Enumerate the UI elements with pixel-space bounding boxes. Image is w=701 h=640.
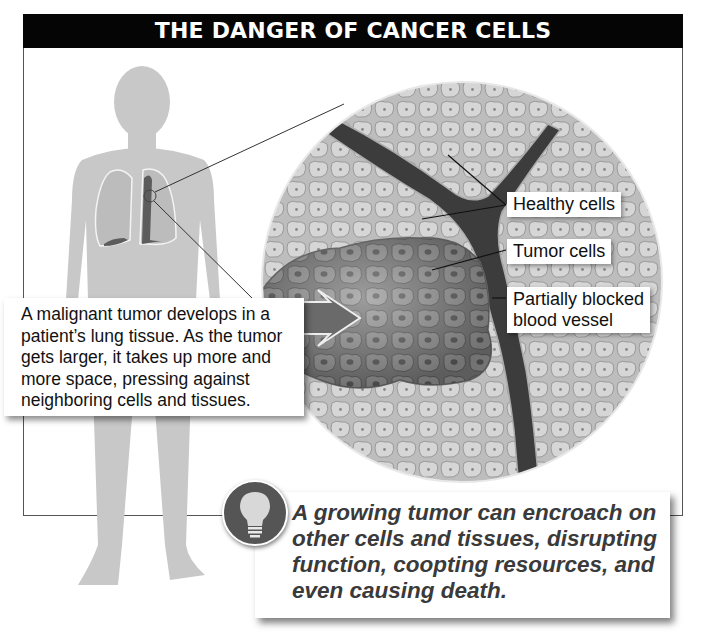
label-healthy-cells: Healthy cells xyxy=(507,192,621,217)
key-insight-box: A growing tumor can encroach on other ce… xyxy=(255,492,670,618)
insight-line: even causing death. xyxy=(292,578,664,604)
magnified-tissue xyxy=(250,70,680,500)
label-blocked-vessel: Partially blocked blood vessel xyxy=(507,287,650,333)
insight-line: other cells and tissues, disrupting xyxy=(292,526,664,552)
label-blocked-vessel-line2: blood vessel xyxy=(513,310,644,331)
callout-line: patient’s lung tissue. As the tumor xyxy=(21,326,296,348)
callout-line: more space, pressing against xyxy=(21,369,296,391)
callout-line: neighboring cells and tissues. xyxy=(21,390,296,412)
lightbulb-icon xyxy=(222,480,288,546)
label-tumor-cells: Tumor cells xyxy=(507,239,611,264)
callout-line: gets larger, it takes up more and xyxy=(21,347,296,369)
insight-line: A growing tumor can encroach on xyxy=(292,500,664,526)
label-blocked-vessel-line1: Partially blocked xyxy=(513,289,644,310)
insight-line: function, coopting resources, and xyxy=(292,552,664,578)
tumor-description-callout: A malignant tumor develops in a patient’… xyxy=(4,298,304,416)
callout-line: A malignant tumor develops in a xyxy=(21,304,296,326)
